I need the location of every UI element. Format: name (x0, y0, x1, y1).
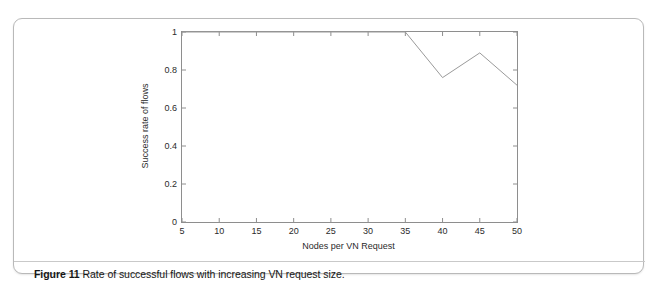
data-series-line (182, 32, 517, 85)
x-tick-label: 45 (475, 226, 485, 236)
figure-caption-text: Rate of successful flows with increasing… (83, 268, 345, 280)
x-tick-label: 30 (363, 226, 373, 236)
x-axis-label: Nodes per VN Request (181, 241, 516, 251)
y-tick-label: 0.2 (164, 179, 177, 189)
y-tick-label: 1 (172, 27, 177, 37)
x-tick-label: 15 (251, 226, 261, 236)
x-tick-label: 5 (179, 226, 184, 236)
x-tick-label: 25 (326, 226, 336, 236)
x-tick-label: 20 (289, 226, 299, 236)
figure-caption-label: Figure 11 (34, 268, 80, 280)
chart-figure: Success rate of flows 00.20.40.60.81 510… (14, 19, 645, 234)
y-axis-label: Success rate of flows (140, 83, 150, 168)
y-tick-label: 0 (172, 217, 177, 227)
x-tick-label: 40 (438, 226, 448, 236)
y-tick-label: 0.8 (164, 65, 177, 75)
x-tick-label: 10 (214, 226, 224, 236)
y-tick-label: 0.6 (164, 103, 177, 113)
y-tick-label: 0.4 (164, 141, 177, 151)
figure-card: Success rate of flows 00.20.40.60.81 510… (13, 18, 644, 274)
plot-svg (182, 32, 517, 222)
x-tick-label: 50 (512, 226, 522, 236)
x-tick-label: 35 (400, 226, 410, 236)
plot-area: 00.20.40.60.81 5101520253035404550 (181, 31, 518, 223)
figure-caption: Figure 11 Rate of successful flows with … (34, 268, 345, 280)
tick-marks (182, 32, 517, 222)
caption-divider (14, 261, 645, 262)
